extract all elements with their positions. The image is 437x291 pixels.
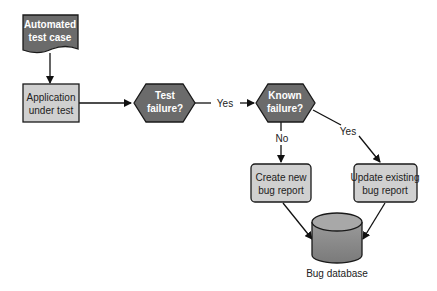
node-app-line1: Application: [27, 92, 76, 103]
node-update-line1: Update existing: [351, 172, 420, 183]
edge-label-yes-2: Yes: [340, 126, 356, 137]
node-test-failure-decision: Test failure?: [134, 84, 195, 122]
node-automated-test-case-line2: test case: [29, 32, 72, 43]
node-application-under-test: Application under test: [23, 84, 79, 122]
node-test-failure-line2: failure?: [147, 103, 183, 114]
node-bug-database-label: Bug database: [306, 268, 368, 279]
node-automated-test-case-line1: Automated: [24, 19, 76, 30]
node-update-existing-bug-report: Update existing bug report: [351, 164, 420, 202]
edge-known-to-update-a: [313, 110, 341, 125]
node-test-failure-line1: Test: [155, 90, 175, 101]
node-app-line2: under test: [29, 105, 74, 116]
node-bug-database: Bug database: [306, 213, 368, 279]
edge-create-to-db: [283, 203, 312, 239]
node-known-failure-decision: Known failure?: [256, 84, 315, 122]
flowchart: Yes No Yes Automated test case Applicati…: [0, 0, 437, 291]
node-known-failure-line2: failure?: [267, 103, 303, 114]
edge-known-to-update-b: [359, 136, 380, 162]
edge-update-to-db: [363, 203, 385, 239]
node-known-failure-line1: Known: [268, 90, 301, 101]
node-create-new-bug-report: Create new bug report: [251, 164, 311, 202]
edge-label-yes-1: Yes: [217, 98, 233, 109]
node-create-line1: Create new: [255, 172, 307, 183]
node-update-line2: bug report: [362, 185, 408, 196]
edge-label-no: No: [276, 133, 289, 144]
node-create-line2: bug report: [258, 185, 304, 196]
node-automated-test-case: Automated test case: [23, 15, 78, 53]
